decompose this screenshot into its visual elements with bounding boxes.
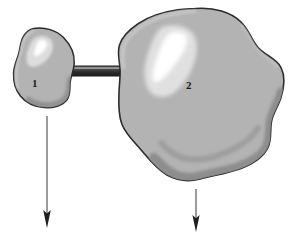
- body-1-label: 1: [32, 78, 38, 89]
- large-mass-group: [118, 8, 283, 180]
- downward-arrow-left: [43, 116, 51, 228]
- blob-diagram-graphic: [0, 0, 288, 239]
- downward-arrow-right: [192, 189, 199, 232]
- figure-canvas: 1 2: [0, 0, 288, 239]
- body-2-label: 2: [186, 80, 192, 91]
- small-mass-group: [14, 28, 75, 108]
